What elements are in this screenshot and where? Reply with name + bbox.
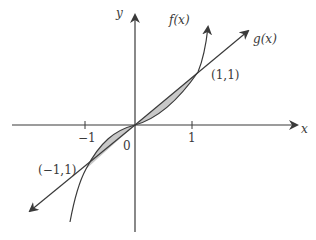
point-1-1: (1,1) [211, 68, 239, 82]
origin-label: 0 [123, 139, 131, 153]
f-label: f(x) [169, 13, 190, 27]
tick-label-one: 1 [188, 131, 196, 145]
x-axis-label: x [301, 122, 308, 136]
y-axis-label: y [116, 6, 123, 20]
g-label: g(x) [253, 32, 277, 46]
tick-label-neg-one: −1 [78, 131, 96, 145]
point-neg1-1: (−1,1) [38, 163, 77, 177]
